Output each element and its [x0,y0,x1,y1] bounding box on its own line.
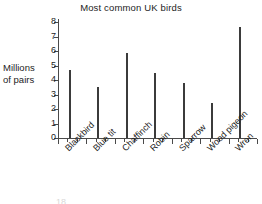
y-axis-tick-label: 5 [51,60,56,71]
x-axis-tick-major [200,139,201,144]
y-axis-tick-label: 6 [51,45,56,56]
x-axis-tick-major [229,139,230,144]
bar[interactable] [183,83,185,138]
y-axis-tick-label: 3 [51,89,56,100]
x-axis-tick-major [115,139,116,144]
y-axis-tick-label: 4 [51,74,56,85]
y-axis-label-line-1: Millions [3,62,49,74]
bar[interactable] [69,70,71,138]
bar[interactable] [211,103,213,138]
bar[interactable] [126,53,128,138]
bar[interactable] [97,87,99,138]
y-axis-tick-label: 8 [51,16,56,27]
y-axis-label-line-2: of pairs [3,74,49,86]
y-axis-tick-label: 0 [51,132,56,143]
y-axis-tick-label: 7 [51,31,56,42]
bar-chart-figure: Most common UK birds Millions of pairs 0… [0,0,262,204]
page-number-artifact: 18 [56,197,66,204]
x-axis-tick-major [172,139,173,144]
chart-title: Most common UK birds [0,2,262,13]
y-axis-tick-label: 2 [51,103,56,114]
bar[interactable] [154,73,156,138]
x-axis-tick-major [86,139,87,144]
x-axis-tick-major [257,139,258,144]
y-axis-label: Millions of pairs [3,62,49,86]
x-axis-tick-major [58,139,59,144]
y-axis-tick-label: 1 [51,118,56,129]
x-axis-tick-major [143,139,144,144]
y-axis-line [58,19,59,138]
